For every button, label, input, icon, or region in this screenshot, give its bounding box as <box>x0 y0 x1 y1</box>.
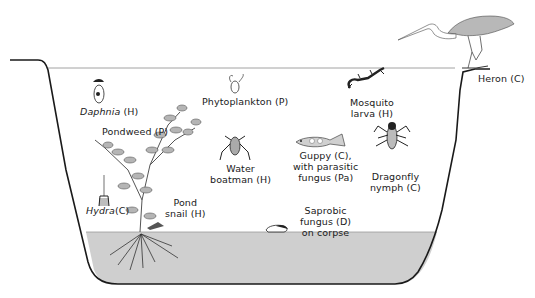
water-boatman-label: Water boatman (H) <box>210 163 271 185</box>
sediment-layer <box>86 232 437 284</box>
daphnia-label: Daphnia (H) <box>80 106 138 117</box>
dragonfly-nymph-label: Dragonfly nymph (C) <box>370 171 421 193</box>
daphnia-name: Daphnia <box>80 106 120 117</box>
mosquito-larva-label: Mosquito larva (H) <box>350 97 394 119</box>
heron-icon <box>398 16 514 68</box>
pond-illustration <box>0 0 535 298</box>
hydra-role: (C) <box>115 205 129 216</box>
heron-label: Heron (C) <box>478 73 524 84</box>
hydra-name: Hydra <box>86 205 115 216</box>
pond-diagram: Daphnia (H) Phytoplankton (P) Mosquito l… <box>0 0 535 298</box>
pond-snail-icon <box>147 222 164 230</box>
pond-snail-label: Pond snail (H) <box>165 197 206 219</box>
guppy-label: Guppy (C), with parasitic fungus (Pa) <box>293 150 358 183</box>
pondweed-label: Pondweed (P) <box>102 126 168 137</box>
mosquito-larva-icon <box>348 68 384 88</box>
daphnia-icon <box>93 79 104 103</box>
hydra-label: Hydra(C) <box>86 205 129 216</box>
saprobic-fungus-label: Saprobic fungus (D) on corpse <box>300 205 351 238</box>
phytoplankton-label: Phytoplankton (P) <box>202 96 288 107</box>
saprobic-fungus-corpse-icon <box>266 225 288 232</box>
phytoplankton-icon <box>230 74 244 93</box>
guppy-icon <box>296 134 345 147</box>
hydra-icon <box>99 175 109 206</box>
water-boatman-icon <box>220 136 250 160</box>
dragonfly-nymph-icon <box>374 122 410 149</box>
daphnia-role: (H) <box>124 106 139 117</box>
